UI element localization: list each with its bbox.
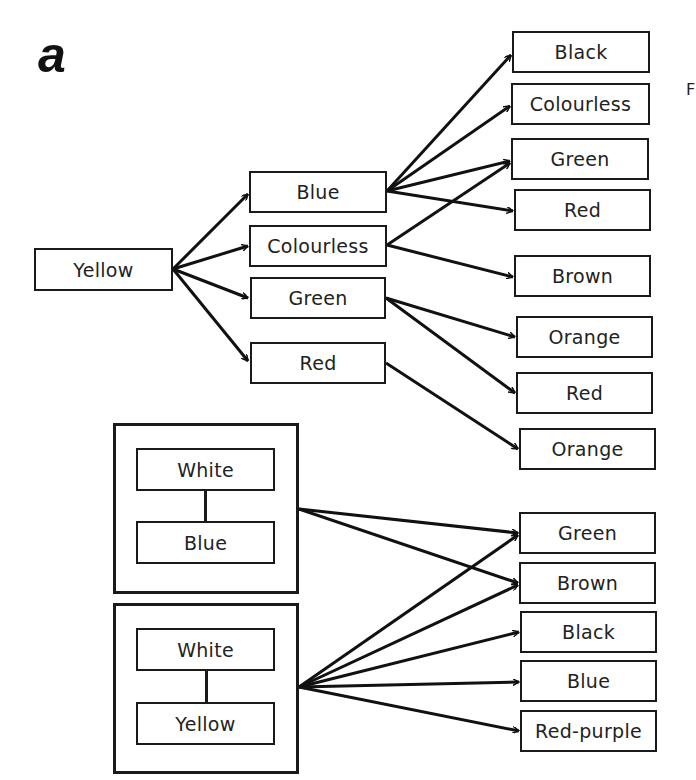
node-l1-blue: Blue (249, 171, 387, 213)
arrow-whiteyellow-black (299, 632, 519, 687)
target-green: Green (519, 512, 656, 554)
target-blue: Blue (520, 660, 657, 702)
mixture2-connector (205, 671, 208, 702)
mixture2-white: White (136, 628, 275, 671)
arrow-whiteblue-brown (299, 509, 518, 583)
mixture1-blue: Blue (136, 521, 275, 564)
arrow-whiteblue-green (299, 509, 518, 533)
cropped-side-label: F (686, 80, 695, 99)
panel-label: a (38, 30, 66, 80)
target-brown: Brown (519, 562, 656, 604)
node-l2-black: Black (512, 31, 650, 73)
arrow-whiteyellow-redpurple (299, 687, 519, 731)
node-l2-colourless: Colourless (511, 83, 650, 125)
node-l1-green: Green (250, 277, 386, 319)
arrow-red-orange (386, 363, 518, 449)
arrow-colourless-green (387, 163, 510, 245)
arrow-blue-black (387, 55, 511, 191)
node-l2-green: Green (511, 138, 649, 180)
node-l2-red-2: Red (516, 372, 653, 414)
target-black: Black (520, 611, 657, 653)
arrow-whiteyellow-green (299, 535, 518, 687)
arrow-colourless-brown (387, 245, 513, 277)
arrow-green-red (386, 298, 515, 393)
arrow-whiteyellow-brown (299, 585, 518, 687)
node-l2-red: Red (514, 189, 651, 231)
node-l2-orange-2: Orange (519, 428, 656, 470)
arrow-yellow-blue (173, 194, 248, 269)
arrow-blue-green (387, 161, 510, 191)
arrow-blue-colourless (387, 106, 510, 191)
arrow-yellow-green (173, 269, 248, 298)
mixture1-white: White (136, 448, 275, 491)
arrow-whiteyellow-blue (299, 682, 519, 687)
arrow-yellow-red (173, 269, 248, 361)
node-root-yellow: Yellow (34, 248, 173, 291)
arrow-yellow-colourless (173, 246, 248, 269)
node-l1-colourless: Colourless (249, 225, 387, 267)
arrow-green-orange (386, 298, 515, 337)
node-l2-orange: Orange (516, 316, 653, 358)
target-red-purple: Red-purple (520, 710, 657, 752)
mixture1-connector (204, 491, 207, 521)
mixture2-yellow: Yellow (136, 702, 275, 745)
node-l1-red: Red (250, 342, 386, 384)
arrow-blue-red (387, 191, 513, 211)
node-l2-brown: Brown (514, 255, 651, 297)
